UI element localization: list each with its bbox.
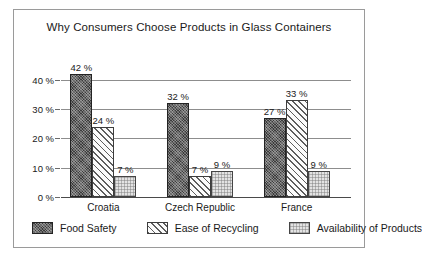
legend-swatch-icon-availability-of-products — [289, 222, 310, 234]
plot-area: 0 %10 %20 %30 %40 %42 %24 %7 %Croatia32 … — [61, 65, 351, 197]
bar[interactable]: 9 % — [211, 171, 233, 197]
y-axis-tick-label: 40 % — [32, 74, 54, 85]
bar[interactable]: 27 % — [264, 118, 286, 197]
bar-value-label: 27 % — [264, 106, 286, 117]
legend-item-availability-of-products[interactable]: Availability of Products — [289, 222, 422, 234]
chart-title: Why Consumers Choose Products in Glass C… — [14, 21, 364, 33]
x-axis-category-label: Croatia — [87, 202, 119, 213]
bar-value-label: 9 % — [310, 159, 326, 170]
legend-label: Ease of Recycling — [175, 222, 259, 234]
legend-item-ease-of-recycling[interactable]: Ease of Recycling — [147, 222, 259, 234]
y-axis-tick-mark — [55, 80, 60, 81]
bar-value-label: 24 % — [93, 115, 115, 126]
bar[interactable]: 24 % — [92, 127, 114, 197]
gridline — [61, 197, 351, 198]
bar-value-label: 9 % — [214, 159, 230, 170]
bar-value-label: 42 % — [71, 62, 93, 73]
bar-value-label: 32 % — [167, 91, 189, 102]
bar[interactable]: 32 % — [167, 103, 189, 197]
bar[interactable]: 7 % — [114, 176, 136, 197]
legend-item-food-safety[interactable]: Food Safety — [32, 222, 117, 234]
y-axis-tick-label: 30 % — [32, 104, 54, 115]
legend-swatch-icon-ease-of-recycling — [147, 222, 168, 234]
bar[interactable]: 42 % — [70, 74, 92, 197]
y-axis-tick-label: 0 % — [38, 192, 54, 203]
y-axis-tick-mark — [55, 138, 60, 139]
x-axis-category-label: Czech Republic — [165, 202, 235, 213]
y-axis-tick-label: 10 % — [32, 162, 54, 173]
bar[interactable]: 33 % — [286, 100, 308, 197]
bar-value-label: 7 % — [117, 164, 133, 175]
y-axis-tick-mark — [55, 109, 60, 110]
chart-legend: Food Safety Ease of Recycling Availabili… — [28, 222, 354, 234]
bar[interactable]: 7 % — [189, 176, 211, 197]
y-axis-tick-mark — [55, 168, 60, 169]
legend-label: Food Safety — [60, 222, 117, 234]
y-axis-tick-mark — [55, 197, 60, 198]
chart-figure: Why Consumers Choose Products in Glass C… — [13, 9, 365, 248]
legend-swatch-icon-food-safety — [32, 222, 53, 234]
bar-value-label: 7 % — [192, 164, 208, 175]
x-axis-category-label: France — [281, 202, 312, 213]
bar[interactable]: 9 % — [308, 171, 330, 197]
y-axis-tick-label: 20 % — [32, 133, 54, 144]
bar-value-label: 33 % — [286, 88, 308, 99]
gridline — [61, 80, 351, 81]
legend-label: Availability of Products — [317, 222, 422, 234]
